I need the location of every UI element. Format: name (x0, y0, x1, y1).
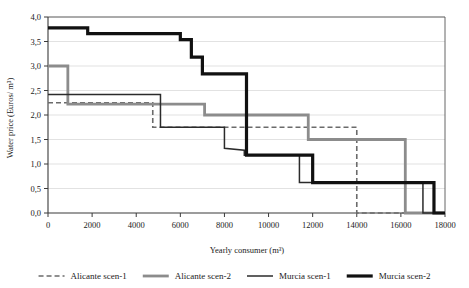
legend-label-alicante-scen-2: Alicante scen-2 (175, 271, 231, 281)
y-axis-title: Water price (Euros/ m³) (5, 78, 15, 159)
x-tick-label: 0 (46, 220, 50, 230)
y-tick-label: 4,0 (30, 12, 41, 22)
x-tick-label: 4000 (128, 220, 145, 230)
y-tick-label: 0,5 (30, 184, 41, 194)
legend-label-murcia-scen-2: Murcia scen-2 (379, 271, 431, 281)
y-tick-label: 3,0 (30, 61, 41, 71)
x-tick-label: 8000 (216, 220, 233, 230)
x-tick-label: 6000 (172, 220, 189, 230)
legend-label-alicante-scen-1: Alicante scen-1 (71, 271, 127, 281)
y-tick-label: 0,0 (30, 208, 41, 218)
y-tick-label: 1,0 (30, 159, 41, 169)
y-tick-label: 2,5 (30, 86, 41, 96)
x-tick-label: 2000 (84, 220, 101, 230)
x-tick-label: 10000 (258, 220, 279, 230)
water-price-step-chart: 0200040006000800010000120001400016000180… (0, 0, 469, 288)
y-tick-labels-group: 0,00,51,01,52,02,53,03,54,0 (30, 12, 41, 218)
x-tick-label: 14000 (346, 220, 367, 230)
x-axis-title: Yearly consumer (m³) (210, 245, 285, 255)
y-tick-label: 2,0 (30, 110, 41, 120)
x-tick-label: 12000 (302, 220, 323, 230)
y-tick-label: 1,5 (30, 135, 41, 145)
x-tick-label: 18000 (434, 220, 455, 230)
x-tick-label: 16000 (390, 220, 411, 230)
legend-label-murcia-scen-1: Murcia scen-1 (279, 271, 331, 281)
chart-figure: 0200040006000800010000120001400016000180… (0, 0, 469, 288)
y-tick-label: 3,5 (30, 37, 41, 47)
